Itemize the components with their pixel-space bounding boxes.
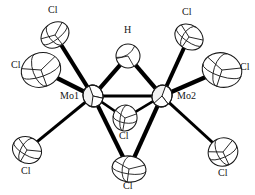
atom-label-cl-mid-left: Cl [11,60,20,70]
bond-mo2-cl8 [166,100,217,147]
atom-label-h-bridge: H [124,25,131,35]
atom-label-cl-upper-right: Cl [182,7,191,17]
atom-cl6-ellipsoid [170,19,208,56]
atom-label-mo1: Mo1 [60,91,79,101]
atom-cl1-ellipsoid [36,16,74,53]
atoms-layer [8,16,247,184]
atom-cl4-ellipsoid [111,103,139,133]
atom-cl7-ellipsoid [198,48,247,93]
bond-mo1-h1 [97,61,124,92]
atom-label-cl-lower-left: Cl [21,166,30,176]
atom-label-cl-bridge-inner: Cl [119,131,128,141]
atom-cl3-ellipsoid [8,131,47,169]
atom-h1-ellipsoid [116,44,140,68]
atom-label-cl-lower-right: Cl [218,168,227,178]
atom-label-cl-bridge-bottom: Cl [123,181,132,191]
molecular-structure-figure: Mo1 Mo2 H Cl Cl Cl Cl Cl Cl Cl Cl [0,0,255,195]
bond-mo2-h1 [132,61,158,92]
atom-label-mo2: Mo2 [177,91,196,101]
bond-mo1-cl3 [33,100,89,146]
atom-label-cl-mid-right: Cl [240,62,249,72]
atom-label-cl-upper-left: Cl [48,5,57,15]
atom-cl2-ellipsoid [16,47,65,93]
bond-mo2-cl6 [165,43,187,90]
